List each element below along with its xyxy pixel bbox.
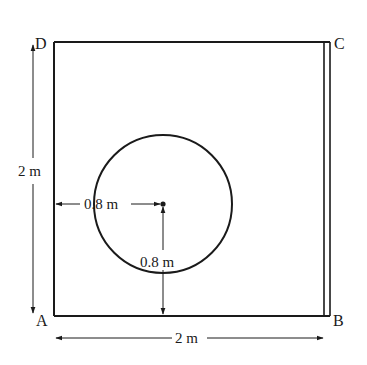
corner-label-a: A: [36, 312, 48, 329]
square-abcd: [54, 42, 330, 316]
left-offset-dimension: 0.8 m: [56, 196, 160, 212]
bottom-offset-label: 0.8 m: [140, 254, 175, 270]
square-plate-diagram: D C A B 2 m 2 m 0.8 m 0.8 m: [0, 0, 367, 365]
corner-label-b: B: [333, 312, 344, 329]
horizontal-dimension-label: 2 m: [175, 330, 198, 346]
corner-label-d: D: [35, 35, 47, 52]
bottom-offset-dimension: 0.8 m: [140, 207, 175, 314]
vertical-dimension: 2 m: [18, 45, 41, 313]
left-offset-label: 0.8 m: [84, 196, 119, 212]
corner-label-c: C: [334, 35, 345, 52]
vertical-dimension-label: 2 m: [18, 163, 41, 179]
circle-center-dot: [160, 201, 165, 206]
horizontal-dimension: 2 m: [56, 330, 323, 346]
